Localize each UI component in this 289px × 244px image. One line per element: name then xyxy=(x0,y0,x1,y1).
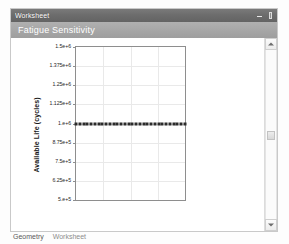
data-series-available-life xyxy=(76,47,185,200)
minimize-button[interactable] xyxy=(255,11,264,20)
bottom-tabstrip: Geometry Worksheet xyxy=(12,232,274,242)
tab-geometry[interactable]: Geometry xyxy=(12,232,45,242)
scroll-down-button[interactable] xyxy=(265,219,277,231)
y-axis-tick-label: 7.5e+5 xyxy=(55,158,71,164)
y-axis-tick-label: 5.e+5 xyxy=(58,196,71,202)
autohide-button[interactable] xyxy=(266,11,275,20)
y-axis-tick-label: 1.375e+6 xyxy=(50,62,71,68)
y-axis-tick-label: 1.5e+6 xyxy=(55,43,71,49)
scroll-up-button[interactable] xyxy=(265,38,277,50)
y-axis-tick-label: 1.125e+6 xyxy=(50,100,71,106)
data-point xyxy=(150,122,153,125)
scrollbar-track[interactable] xyxy=(265,50,277,219)
chart-pane: Available Life (cycles) 1.5e+61.375e+61.… xyxy=(11,38,264,231)
data-point xyxy=(138,122,141,125)
scrollbar-thumb[interactable] xyxy=(267,131,275,140)
data-point xyxy=(157,122,160,125)
data-point xyxy=(82,122,85,125)
chart-caption: Fatigue Sensitivity xyxy=(11,22,277,38)
data-point xyxy=(105,122,108,125)
data-point xyxy=(161,122,164,125)
data-point xyxy=(123,122,126,125)
data-point xyxy=(116,122,119,125)
window-body: Fatigue Sensitivity Available Life (cycl… xyxy=(11,22,277,231)
data-point xyxy=(78,122,81,125)
data-point xyxy=(172,122,175,125)
pin-icon xyxy=(269,12,272,19)
data-point xyxy=(90,122,93,125)
data-point xyxy=(131,122,134,125)
data-point xyxy=(108,122,111,125)
data-point xyxy=(112,122,115,125)
data-point xyxy=(146,122,149,125)
data-point xyxy=(176,122,179,125)
chevron-down-icon xyxy=(268,224,274,227)
data-point xyxy=(165,122,168,125)
tab-worksheet[interactable]: Worksheet xyxy=(52,232,87,242)
data-point xyxy=(127,122,130,125)
chevron-up-icon xyxy=(268,43,274,46)
screenshot-root: Worksheet Fatigue Sensitivity Available … xyxy=(0,0,289,244)
minimize-icon xyxy=(257,16,262,17)
data-point xyxy=(120,122,123,125)
worksheet-window: Worksheet Fatigue Sensitivity Available … xyxy=(10,8,278,232)
y-axis-tick-labels: 1.5e+61.375e+61.25e+61.125e+61.e+68.75e+… xyxy=(39,38,73,231)
y-axis-tick-label: 8.75e+5 xyxy=(52,139,71,145)
data-point xyxy=(153,122,156,125)
data-point xyxy=(101,122,104,125)
data-point xyxy=(184,122,187,125)
y-axis-tick-label: 6.25e+5 xyxy=(52,177,71,183)
data-point xyxy=(180,122,183,125)
data-point xyxy=(75,122,78,125)
vertical-scrollbar[interactable] xyxy=(264,38,277,231)
y-axis-tick-label: 1.25e+6 xyxy=(52,81,71,87)
window-title: Worksheet xyxy=(15,9,253,22)
data-point xyxy=(97,122,100,125)
data-point xyxy=(168,122,171,125)
data-point xyxy=(93,122,96,125)
y-axis-tick xyxy=(73,200,76,201)
fatigue-sensitivity-chart: Available Life (cycles) 1.5e+61.375e+61.… xyxy=(11,38,264,231)
y-axis-tick-label: 1.e+6 xyxy=(58,120,71,126)
window-titlebar[interactable]: Worksheet xyxy=(11,9,277,22)
data-point xyxy=(135,122,138,125)
data-point xyxy=(142,122,145,125)
content-row: Available Life (cycles) 1.5e+61.375e+61.… xyxy=(11,38,277,231)
plot-frame xyxy=(75,46,186,201)
data-point xyxy=(86,122,89,125)
